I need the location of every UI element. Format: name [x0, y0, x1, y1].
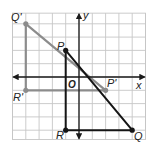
origin-label: O	[68, 79, 76, 90]
vertex-point	[23, 21, 28, 26]
vertex-label-q-prime: Q'	[11, 11, 23, 23]
vertex-label-q: Q	[134, 130, 143, 142]
vertex-label-r: R	[56, 129, 64, 141]
vertex-label-p: P	[57, 40, 65, 52]
x-axis-label: x	[135, 79, 142, 91]
vertex-label-p-prime: P'	[107, 77, 117, 89]
y-axis-label: y	[82, 9, 90, 21]
vertex-label-r-prime: R'	[13, 91, 24, 103]
vertex-point	[23, 88, 28, 93]
coordinate-plane-diagram: x y O P Q R P' Q' R'	[0, 0, 151, 152]
